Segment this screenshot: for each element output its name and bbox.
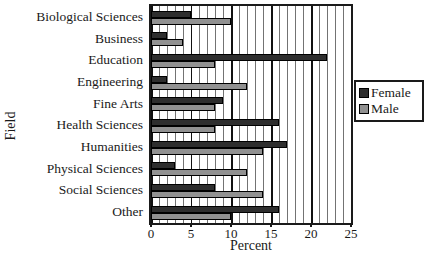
category-label: Health Sciences <box>0 114 146 136</box>
category-label: Business <box>0 28 146 50</box>
category-label: Fine Arts <box>0 93 146 115</box>
legend-items: FemaleMale <box>359 85 420 117</box>
legend-label: Male <box>371 102 399 116</box>
grouped-bar-chart: Field Biological SciencesBusinessEducati… <box>0 0 427 253</box>
category-labels: Biological SciencesBusinessEducationEngi… <box>0 6 146 223</box>
legend-label: Female <box>371 86 411 100</box>
legend-item-male: Male <box>359 101 420 117</box>
category-label: Social Sciences <box>0 180 146 202</box>
legend-swatch <box>359 88 369 98</box>
category-label: Physical Sciences <box>0 158 146 180</box>
category-label: Biological Sciences <box>0 6 146 28</box>
category-label: Education <box>0 49 146 71</box>
plot-area <box>149 4 353 225</box>
category-label: Other <box>0 201 146 223</box>
legend-item-female: Female <box>359 85 420 101</box>
x-axis-title: Percent <box>151 238 351 253</box>
category-label: Engineering <box>0 71 146 93</box>
category-label: Humanities <box>0 136 146 158</box>
legend-swatch <box>359 104 369 114</box>
legend: FemaleMale <box>354 80 424 122</box>
